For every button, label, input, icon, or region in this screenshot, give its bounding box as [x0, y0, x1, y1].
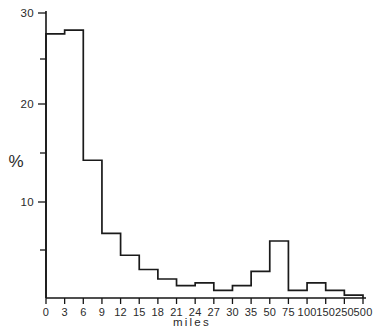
chart-svg: 30 20 10 % 03691215182124273035507510015… [0, 0, 375, 336]
x-tick-label-250: 250 [335, 306, 354, 318]
x-axis-label: miles [173, 316, 211, 328]
x-tick-label-12: 12 [114, 306, 127, 318]
x-tick-label-15: 15 [133, 306, 146, 318]
x-tick-label-500: 500 [354, 306, 373, 318]
histogram-step-outline [46, 30, 363, 298]
x-tick-label-9: 9 [99, 306, 105, 318]
x-tick-label-75: 75 [282, 306, 295, 318]
y-tick-label-10: 10 [21, 196, 34, 208]
x-axis-ticks [46, 298, 363, 304]
y-major-ticks [38, 13, 46, 202]
x-tick-label-50: 50 [263, 306, 276, 318]
y-tick-label-30: 30 [21, 7, 34, 19]
x-tick-label-100: 100 [298, 306, 317, 318]
x-tick-label-18: 18 [152, 306, 165, 318]
y-minor-ticks [40, 59, 46, 250]
x-tick-label-150: 150 [316, 306, 335, 318]
x-tick-label-3: 3 [61, 306, 67, 318]
x-tick-label-6: 6 [80, 306, 86, 318]
x-tick-label-0: 0 [43, 306, 49, 318]
x-tick-label-30: 30 [226, 306, 239, 318]
histogram-chart: 30 20 10 % 03691215182124273035507510015… [0, 0, 375, 336]
y-tick-label-20: 20 [21, 98, 34, 110]
x-tick-label-35: 35 [245, 306, 258, 318]
y-axis-label: % [8, 152, 23, 171]
